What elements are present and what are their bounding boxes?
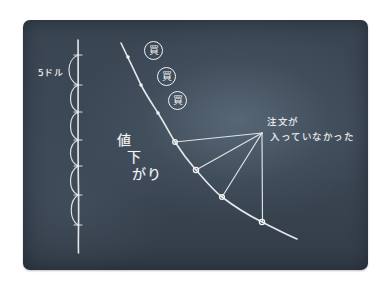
- price-drop-char: が: [132, 166, 147, 183]
- buy-badge: 買: [168, 91, 187, 110]
- interval-arc: [71, 195, 78, 225]
- price-drop-char: 下: [127, 149, 157, 166]
- unfilled-orders-note: 注文が 入っていなかった: [267, 114, 354, 144]
- pointer-line: [262, 133, 263, 222]
- curve-point: [139, 83, 142, 86]
- price-drop-char: り: [147, 166, 162, 183]
- buy-badge: 買: [144, 41, 163, 60]
- price-drop-label: 値 下 がり: [117, 132, 157, 183]
- pointer-line: [222, 133, 262, 197]
- annotation-pointer-lines: [175, 133, 263, 222]
- note-line-2: 入っていなかった: [270, 129, 354, 144]
- note-line-1: 注文が: [267, 114, 354, 129]
- interval-arc: [69, 55, 78, 85]
- interval-arc: [71, 166, 79, 195]
- price-axis: [78, 40, 79, 253]
- buy-badge: 買: [157, 67, 176, 86]
- interval-arc: [71, 85, 79, 112]
- interval-arc: [71, 112, 79, 140]
- curve-point: [126, 55, 129, 58]
- price-drop-char: 値: [117, 132, 157, 149]
- interval-arc: [71, 140, 79, 166]
- curve-point: [156, 111, 159, 114]
- axis-unit-label: 5ドル: [38, 66, 63, 79]
